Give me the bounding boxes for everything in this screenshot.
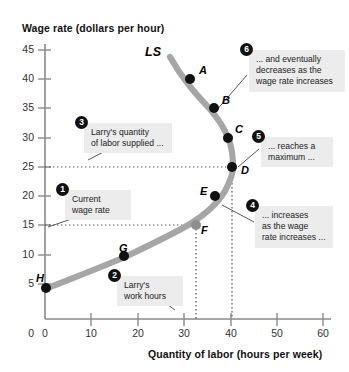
callout-badge-4: 4 — [246, 199, 259, 212]
callout-3-line1: Larry's quantity — [91, 127, 166, 138]
leader-line-6 — [215, 75, 247, 112]
callout-badge-2: 2 — [108, 269, 121, 282]
callout-6-line1: ... and eventually — [256, 54, 339, 65]
point-label-g: G — [119, 242, 128, 254]
x-tick-40: 40 — [218, 327, 244, 339]
callout-2-line2: work hours — [124, 291, 177, 302]
callout-1-line1: Current — [72, 194, 125, 205]
point-h — [41, 283, 51, 293]
callout-4-line2: as the wage — [262, 221, 327, 232]
y-tick-45: 45 — [8, 43, 34, 55]
point-label-f: F — [201, 224, 208, 236]
callout-badge-6: 6 — [240, 43, 253, 56]
point-label-b: B — [222, 94, 230, 106]
callout-4-line3: rate increases ... — [262, 232, 327, 243]
x-tick-50: 50 — [264, 327, 290, 339]
callout-1: Current wage rate — [65, 190, 131, 220]
x-tick-30: 30 — [171, 327, 197, 339]
x-tick-10: 10 — [78, 327, 104, 339]
y-tick-25: 25 — [8, 160, 34, 172]
point-label-a: A — [199, 64, 207, 76]
callout-3-line2: of labor supplied ... — [91, 138, 166, 149]
callout-4-line1: ... increases — [262, 210, 327, 221]
callout-5-line1: ... reaches a — [268, 141, 327, 152]
callout-2: Larry's work hours — [117, 276, 183, 306]
point-a — [185, 74, 195, 84]
point-d — [227, 162, 237, 172]
y-tick-15: 15 — [8, 218, 34, 230]
y-tick-10: 10 — [8, 248, 34, 260]
point-label-e: E — [200, 185, 207, 197]
y-tick-30: 30 — [8, 131, 34, 143]
x-tick-60: 60 — [310, 327, 336, 339]
callout-1-line2: wage rate — [72, 205, 125, 216]
point-label-c: C — [235, 123, 243, 135]
x-tick-20: 20 — [125, 327, 151, 339]
callout-3: Larry's quantity of labor supplied ... — [84, 123, 172, 153]
callout-badge-1: 1 — [56, 183, 69, 196]
y-tick-5: 5 — [8, 277, 34, 289]
callout-6-line3: wage rate increases — [256, 76, 339, 87]
callout-5: ... reaches a maximum ... — [261, 137, 333, 167]
y-tick-35: 35 — [8, 101, 34, 113]
labor-supply-chart: Wage rate (dollars per hour) Quantity of… — [0, 0, 349, 372]
labor-supply-curve — [45, 57, 233, 289]
y-tick-40: 40 — [8, 72, 34, 84]
y-tick-20: 20 — [8, 189, 34, 201]
callout-4: ... increases as the wage rate increases… — [255, 206, 333, 248]
callout-5-line2: maximum ... — [268, 152, 327, 163]
y-tick-0: 0 — [8, 327, 34, 339]
callout-6-line2: decreases as the — [256, 65, 339, 76]
point-f — [191, 220, 201, 230]
x-axis-title: Quantity of labor (hours per week) — [148, 348, 322, 360]
callout-6: ... and eventually decreases as the wage… — [249, 50, 345, 92]
y-axis-title: Wage rate (dollars per hour) — [22, 22, 164, 34]
point-c — [223, 133, 233, 143]
curve-label-ls: LS — [145, 45, 161, 59]
callout-badge-5: 5 — [252, 130, 265, 143]
point-label-h: H — [36, 272, 44, 284]
callout-badge-3: 3 — [75, 116, 88, 129]
point-e — [210, 191, 220, 201]
x-tick-0: 0 — [32, 327, 58, 339]
point-label-d: D — [241, 164, 249, 176]
point-b — [209, 103, 219, 113]
callout-2-line1: Larry's — [124, 280, 177, 291]
